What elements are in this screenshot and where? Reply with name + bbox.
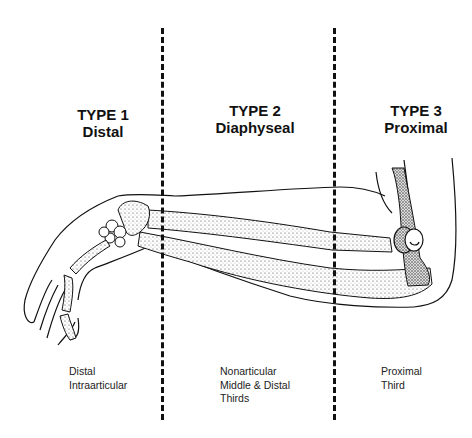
elbow-joint <box>394 227 423 253</box>
zone-divider-left <box>161 28 164 420</box>
humerus-bone <box>392 168 430 286</box>
finger-bones <box>60 240 110 340</box>
zone-title-type-3: TYPE 3 Proximal <box>366 102 466 136</box>
forearm-fracture-classification-diagram: TYPE 1 Distal TYPE 2 Diaphyseal TYPE 3 P… <box>0 0 472 438</box>
zone-description-type-3: Proximal Third <box>381 365 422 392</box>
zone-description-type-2: Nonarticular Middle & Distal Thirds <box>220 365 290 406</box>
zone-description-type-1: Distal Intraarticular <box>69 365 127 392</box>
zone-title-type-2: TYPE 2 Diaphyseal <box>200 102 310 136</box>
zone-divider-right <box>333 28 336 420</box>
zone-title-type-1: TYPE 1 Distal <box>60 106 146 140</box>
